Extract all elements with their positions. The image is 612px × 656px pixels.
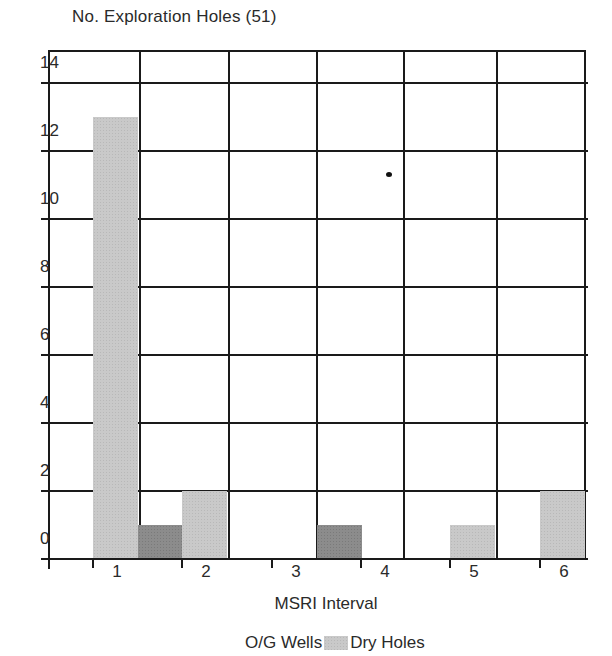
x-tick-label: 4 [375,562,395,582]
bar-dry-holes [93,117,138,559]
bar-dry-holes [182,491,227,559]
y-tick-label: 10 [40,189,64,209]
legend-dry-holes-swatch [324,636,348,650]
x-tick-mark [360,560,362,568]
y-tick-label: 4 [40,393,64,413]
gridline-h [41,82,588,84]
gridline-v [496,50,498,559]
legend-og-wells-label: O/G Wells [245,633,322,653]
x-tick-label: 6 [554,562,574,582]
bar-og-wells [317,525,362,559]
y-tick-label: 0 [40,529,64,549]
x-tick-mark [181,560,183,568]
x-tick-label: 2 [196,562,216,582]
x-tick-label: 3 [286,562,306,582]
x-tick-mark [449,560,451,568]
y-tick-label: 14 [40,53,64,73]
x-tick-label: 1 [107,562,127,582]
gridline-v [403,50,405,559]
x-tick-label: 5 [464,562,484,582]
bar-dry-holes [540,491,585,559]
x-tick-mark [271,560,273,568]
bar-og-wells [138,525,183,559]
gridline-v [228,50,230,559]
gridline-v [139,50,141,559]
y-tick-label: 12 [40,121,64,141]
gridline-v [316,50,318,559]
x-axis-title: MSRI Interval [0,594,612,614]
legend: O/G Wells Dry Holes [245,633,425,653]
x-tick-mark [92,560,94,568]
bar-dry-holes [450,525,495,559]
x-axis-line [41,558,588,560]
y-tick-label: 8 [40,257,64,277]
y-tick-label: 2 [40,461,64,481]
legend-dry-holes-label: Dry Holes [350,633,425,653]
x-tick-mark [539,560,541,568]
scan-artifact [386,172,392,177]
chart-title: No. Exploration Holes (51) [72,7,277,27]
y-tick-label: 6 [40,325,64,345]
